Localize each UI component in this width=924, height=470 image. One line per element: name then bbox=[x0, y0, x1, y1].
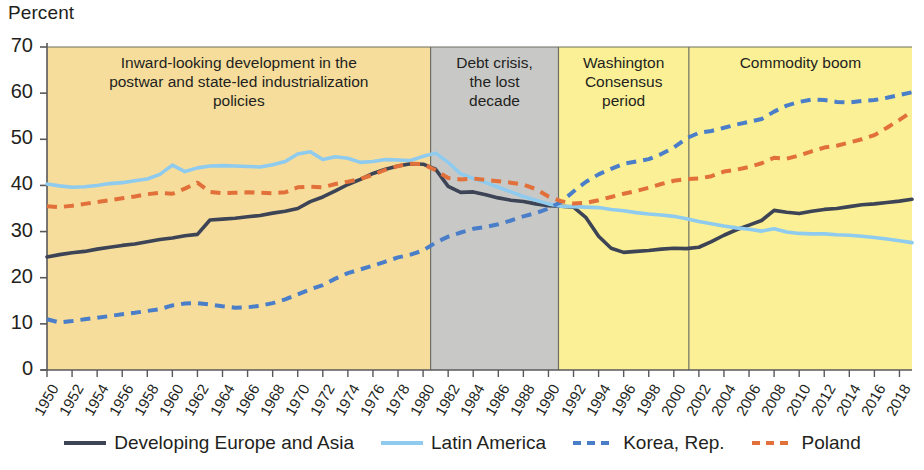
band-label-debt-crisis: Debt crisis,the lostdecade bbox=[435, 54, 555, 111]
band-label-line: Consensus bbox=[562, 73, 684, 92]
band-label-line: Washington bbox=[562, 54, 684, 73]
legend-label: Developing Europe and Asia bbox=[114, 432, 354, 454]
y-tick-label: 70 bbox=[0, 34, 33, 57]
y-tick-label: 10 bbox=[0, 311, 33, 334]
y-tick-label: 20 bbox=[0, 265, 33, 288]
legend-item[interactable]: Poland bbox=[751, 432, 861, 454]
legend-item[interactable]: Korea, Rep. bbox=[572, 432, 724, 454]
y-axis-title: Percent bbox=[8, 2, 74, 24]
band-label-line: Inward-looking development in the bbox=[51, 54, 427, 73]
y-tick-label: 60 bbox=[0, 80, 33, 103]
y-tick-label: 40 bbox=[0, 172, 33, 195]
band-label-inward-looking: Inward-looking development in thepostwar… bbox=[51, 54, 427, 111]
chart-figure: Percent 01020304050607019501952195419561… bbox=[0, 0, 924, 470]
legend-swatch bbox=[63, 437, 107, 449]
band-label-line: decade bbox=[435, 92, 555, 111]
legend-label: Latin America bbox=[431, 432, 546, 454]
y-tick-label: 30 bbox=[0, 219, 33, 242]
legend-item[interactable]: Latin America bbox=[380, 432, 546, 454]
legend-label: Poland bbox=[802, 432, 861, 454]
legend-swatch bbox=[572, 437, 616, 449]
band-label-line: the lost bbox=[435, 73, 555, 92]
y-tick-label: 50 bbox=[0, 126, 33, 149]
chart-legend: Developing Europe and AsiaLatin AmericaK… bbox=[0, 432, 924, 454]
legend-label: Korea, Rep. bbox=[623, 432, 724, 454]
band-commodity-boom bbox=[689, 47, 912, 370]
legend-item[interactable]: Developing Europe and Asia bbox=[63, 432, 354, 454]
band-label-line: period bbox=[562, 92, 684, 111]
band-label-line: Commodity boom bbox=[693, 54, 908, 73]
band-label-line: postwar and state-led industrialization bbox=[51, 73, 427, 92]
band-label-washington-consensus: WashingtonConsensusperiod bbox=[562, 54, 684, 111]
legend-swatch bbox=[380, 437, 424, 449]
y-tick-label: 0 bbox=[0, 357, 33, 380]
band-label-line: Debt crisis, bbox=[435, 54, 555, 73]
band-label-line: policies bbox=[51, 92, 427, 111]
legend-swatch bbox=[751, 437, 795, 449]
band-label-commodity-boom: Commodity boom bbox=[693, 54, 908, 73]
